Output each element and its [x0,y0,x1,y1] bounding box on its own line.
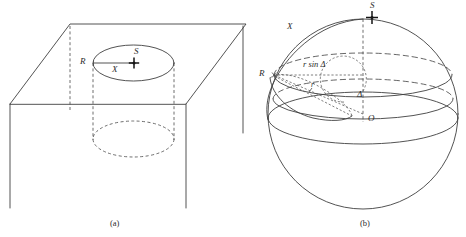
figure-container: R S X (a) S X R r sin Δ r Δ O (b) [0,0,466,237]
caption-panel-a: (a) [110,219,119,228]
label-receiver-a: R [80,57,86,66]
label-center-O: O [368,114,375,123]
caption-panel-b: (b) [360,219,370,228]
label-distance-a: X [112,65,118,74]
source-cross-marker-b [366,11,378,24]
source-cross-marker-a [129,58,139,69]
label-angle-delta: Δ [357,90,362,99]
plane-parallelogram [10,24,246,104]
cylinder-hidden-edges [70,26,174,140]
cylinder-bottom-ellipse [93,121,174,157]
label-receiver-b: R [259,69,265,78]
label-source-a: S [134,47,139,56]
label-distance-b: X [287,22,293,31]
panel-a-graphic [0,0,466,237]
label-radius-r: r [311,81,314,89]
label-source-b: S [370,1,375,10]
plane-front-edges [10,26,243,208]
label-r-sin-delta: r sin Δ [303,60,325,69]
